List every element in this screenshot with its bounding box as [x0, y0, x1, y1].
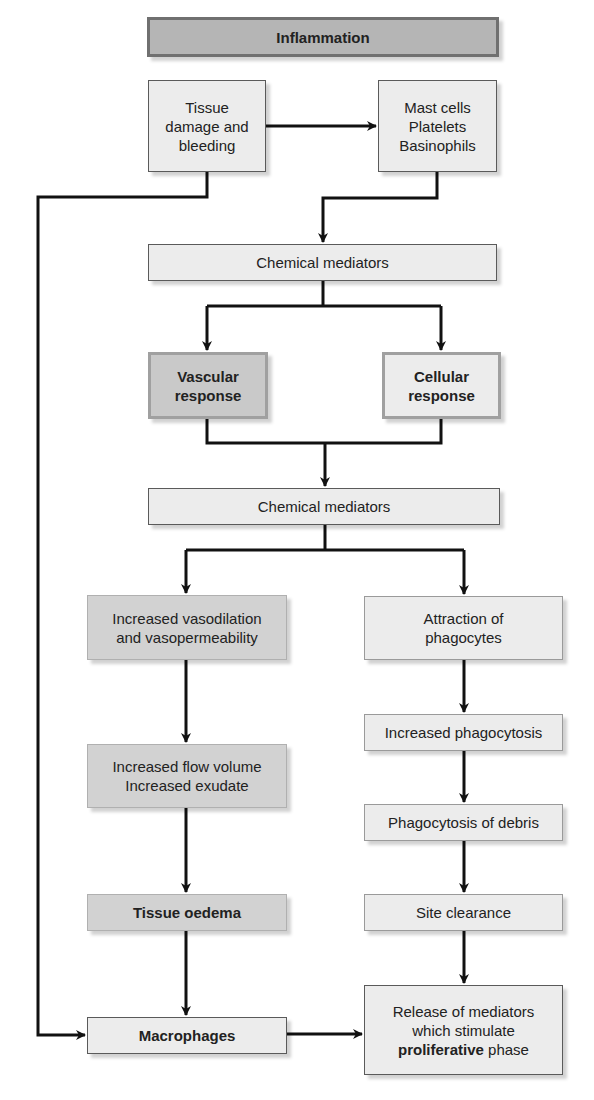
node-text: Site clearance	[416, 903, 511, 922]
node-text: bleeding	[179, 136, 236, 155]
node-text: Increased phagocytosis	[385, 723, 543, 742]
node-text: Cellular	[414, 367, 469, 386]
node-text-bold: proliferative	[398, 1041, 484, 1058]
node-vasodilation: Increased vasodilation and vasopermeabil…	[87, 595, 287, 660]
connector-lines	[0, 0, 594, 1100]
node-text: Chemical mediators	[258, 497, 391, 516]
title-label: Inflammation	[276, 28, 369, 47]
node-text: phagocytes	[425, 628, 502, 647]
node-text: Attraction of	[423, 609, 503, 628]
node-text: Increased exudate	[125, 776, 248, 795]
node-tissue-damage: Tissue damage and bleeding	[148, 80, 266, 172]
node-cellular-response: Cellular response	[382, 352, 501, 419]
node-release-mediators: Release of mediators which stimulate pro…	[364, 985, 563, 1075]
node-text: Phagocytosis of debris	[388, 813, 539, 832]
node-text: Vascular	[177, 367, 239, 386]
node-text: Chemical mediators	[256, 253, 389, 272]
node-chemical-mediators-2: Chemical mediators	[148, 488, 500, 525]
inflammation-flowchart: Inflammation Tissue damage and bleeding …	[0, 0, 594, 1100]
node-text: Tissue oedema	[133, 903, 241, 922]
node-macrophages: Macrophages	[87, 1017, 287, 1054]
node-text: which stimulate	[412, 1021, 515, 1040]
node-tissue-oedema: Tissue oedema	[87, 894, 287, 931]
node-text: Release of mediators	[393, 1002, 535, 1021]
node-flow-volume: Increased flow volume Increased exudate	[87, 744, 287, 808]
node-text-line3: proliferative phase	[398, 1040, 529, 1059]
node-phagocytosis-debris: Phagocytosis of debris	[364, 804, 563, 841]
node-text: damage and	[165, 117, 248, 136]
node-text: Platelets	[409, 117, 467, 136]
node-text: and vasopermeability	[116, 628, 258, 647]
node-text: Tissue	[185, 98, 229, 117]
node-chemical-mediators-1: Chemical mediators	[148, 244, 497, 281]
title-inflammation: Inflammation	[147, 17, 499, 57]
node-vascular-response: Vascular response	[148, 352, 268, 419]
node-mast-cells: Mast cells Platelets Basinophils	[378, 80, 497, 172]
node-site-clearance: Site clearance	[364, 894, 563, 931]
node-increased-phagocytosis: Increased phagocytosis	[364, 714, 563, 751]
node-text: Increased flow volume	[112, 757, 261, 776]
node-text: Increased vasodilation	[112, 609, 261, 628]
node-text: Mast cells	[404, 98, 471, 117]
node-text: phase	[484, 1041, 529, 1058]
node-text: response	[408, 386, 475, 405]
node-text: response	[175, 386, 242, 405]
node-attraction-phagocytes: Attraction of phagocytes	[364, 596, 563, 660]
node-text: Basinophils	[399, 136, 476, 155]
node-text: Macrophages	[139, 1026, 236, 1045]
